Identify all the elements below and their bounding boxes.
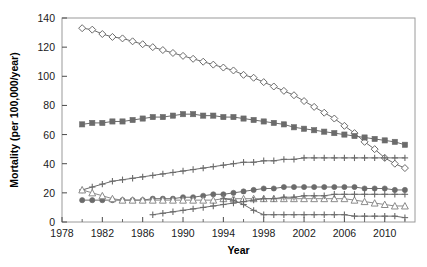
marker-filled-circle bbox=[372, 186, 377, 191]
y-tick-label: 20 bbox=[43, 187, 55, 199]
marker-filled-circle bbox=[352, 184, 357, 189]
marker-filled-circle bbox=[80, 198, 85, 203]
x-tick-label: 1986 bbox=[131, 227, 155, 239]
marker-filled-square bbox=[201, 113, 206, 118]
marker-filled-circle bbox=[322, 184, 327, 189]
mortality-line-chart: 0204060801001201401978198219861990199419… bbox=[0, 0, 427, 267]
x-tick-label: 1990 bbox=[171, 227, 195, 239]
marker-filled-circle bbox=[281, 184, 286, 189]
marker-filled-circle bbox=[332, 184, 337, 189]
marker-filled-circle bbox=[251, 187, 256, 192]
marker-filled-square bbox=[392, 139, 397, 144]
marker-filled-circle bbox=[271, 186, 276, 191]
chart-canvas: 0204060801001201401978198219861990199419… bbox=[0, 0, 427, 267]
marker-filled-square bbox=[402, 142, 407, 147]
x-tick-label: 1978 bbox=[50, 227, 74, 239]
marker-filled-square bbox=[301, 126, 306, 131]
marker-filled-square bbox=[150, 114, 155, 119]
marker-filled-square bbox=[90, 120, 95, 125]
marker-filled-circle bbox=[382, 186, 387, 191]
marker-filled-square bbox=[281, 122, 286, 127]
y-tick-label: 60 bbox=[43, 129, 55, 141]
marker-filled-square bbox=[271, 120, 276, 125]
y-tick-label: 120 bbox=[37, 41, 55, 53]
marker-filled-square bbox=[130, 117, 135, 122]
marker-filled-square bbox=[362, 135, 367, 140]
y-tick-label: 80 bbox=[43, 99, 55, 111]
marker-filled-circle bbox=[301, 184, 306, 189]
marker-filled-square bbox=[261, 119, 266, 124]
marker-filled-square bbox=[231, 114, 236, 119]
marker-filled-circle bbox=[90, 198, 95, 203]
x-axis-title: Year bbox=[227, 244, 249, 256]
marker-filled-square bbox=[332, 131, 337, 136]
marker-filled-square bbox=[382, 138, 387, 143]
x-tick-label: 2006 bbox=[333, 227, 357, 239]
marker-filled-square bbox=[191, 112, 196, 117]
marker-filled-square bbox=[251, 117, 256, 122]
y-tick-label: 100 bbox=[37, 70, 55, 82]
x-tick-label: 1994 bbox=[212, 227, 236, 239]
marker-filled-circle bbox=[362, 186, 367, 191]
marker-filled-circle bbox=[291, 184, 296, 189]
marker-filled-square bbox=[100, 120, 105, 125]
marker-filled-square bbox=[160, 114, 165, 119]
marker-filled-circle bbox=[261, 186, 266, 191]
x-tick-label: 1998 bbox=[252, 227, 276, 239]
marker-filled-circle bbox=[342, 184, 347, 189]
marker-filled-square bbox=[372, 136, 377, 141]
x-tick-label: 2002 bbox=[292, 227, 316, 239]
x-tick-label: 1982 bbox=[91, 227, 115, 239]
marker-filled-square bbox=[211, 113, 216, 118]
marker-filled-square bbox=[221, 114, 226, 119]
marker-filled-square bbox=[241, 116, 246, 121]
marker-filled-square bbox=[322, 129, 327, 134]
marker-filled-circle bbox=[241, 189, 246, 194]
marker-filled-square bbox=[140, 116, 145, 121]
marker-filled-square bbox=[80, 122, 85, 127]
marker-filled-circle bbox=[312, 184, 317, 189]
marker-filled-square bbox=[352, 133, 357, 138]
x-tick-label: 2010 bbox=[373, 227, 397, 239]
marker-filled-square bbox=[120, 119, 125, 124]
y-tick-label: 140 bbox=[37, 12, 55, 24]
y-tick-label: 40 bbox=[43, 158, 55, 170]
marker-filled-square bbox=[170, 113, 175, 118]
marker-filled-square bbox=[180, 112, 185, 117]
marker-filled-square bbox=[291, 125, 296, 130]
marker-filled-square bbox=[312, 128, 317, 133]
marker-filled-square bbox=[342, 132, 347, 137]
y-axis-title: Mortality (per 100,000/year) bbox=[8, 52, 20, 187]
marker-filled-square bbox=[110, 119, 115, 124]
